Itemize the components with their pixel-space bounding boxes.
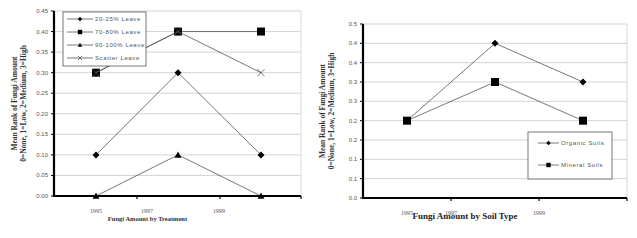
square-legend-icon xyxy=(78,30,82,34)
square-marker-icon xyxy=(257,28,265,36)
legend-label: Scatter Leave xyxy=(95,55,140,61)
chart-treatment: 0.450.400.350.300.250.200.150.100.050.00… xyxy=(0,0,310,238)
y-tick-label: 0.5 xyxy=(349,21,358,27)
y-axis-title: Mean Rank of Fungi Amount xyxy=(318,63,327,158)
legend-label: Organic Soils xyxy=(561,140,604,146)
chart-soil-type: 0.50.40.40.30.30.20.20.10.10.01995199719… xyxy=(310,0,637,238)
legend: 20-25% Leave70-80% Leave90-100% LeaveSca… xyxy=(63,12,146,66)
square-marker-icon xyxy=(403,117,411,125)
legend-item: 70-80% Leave xyxy=(67,29,141,35)
y-tick-label: 0.40 xyxy=(36,29,48,35)
chart-soil-type-svg: 0.50.40.40.30.30.20.20.10.10.01995199719… xyxy=(310,0,637,238)
diamond-marker-icon xyxy=(580,79,587,86)
y-tick-label: 0.35 xyxy=(36,49,48,55)
y-tick-label: 0.2 xyxy=(349,118,358,124)
y-tick-label: 0.30 xyxy=(36,70,48,76)
y-tick-label: 0.10 xyxy=(36,152,48,158)
y-tick-label: 0.25 xyxy=(36,90,48,96)
y-axis-subtitle: 0=None, 1=Low, 2=Medium, 3=High xyxy=(327,52,336,170)
legend-item: Scatter Leave xyxy=(67,55,140,61)
y-tick-label: 0.4 xyxy=(349,40,358,46)
x-tick-label: 1995 xyxy=(90,208,102,214)
y-tick-label: 0.0 xyxy=(349,195,358,201)
legend: Organic SoilsMineral Soils xyxy=(528,132,612,179)
square-marker-icon xyxy=(579,117,587,125)
y-axis-title: Mean Rank of Fungi Amount xyxy=(10,56,19,151)
x-tick-label: 1995 xyxy=(401,210,413,216)
x-tick-label: 1997 xyxy=(141,208,153,214)
chart-treatment-svg: 0.450.400.350.300.250.200.150.100.050.00… xyxy=(0,0,310,238)
legend-label: 20-25% Leave xyxy=(95,16,141,22)
y-tick-label: 0.3 xyxy=(349,79,358,85)
x-axis-title: Fungi Amount by Treatment xyxy=(108,215,188,222)
x-tick-label: 1999 xyxy=(533,210,545,216)
legend-label: Mineral Soils xyxy=(561,162,603,168)
y-tick-label: 0.4 xyxy=(349,60,358,66)
square-marker-icon xyxy=(491,78,499,86)
y-tick-label: 0.05 xyxy=(36,172,48,178)
legend-label: 90-100% Leave xyxy=(95,42,145,48)
x-axis-title: Fungi Amount by Soil Type xyxy=(412,211,517,221)
y-tick-label: 0.2 xyxy=(349,137,358,143)
y-tick-label: 0.45 xyxy=(36,8,48,14)
square-legend-icon xyxy=(546,163,550,167)
legend-label: 70-80% Leave xyxy=(95,29,141,35)
y-tick-label: 0.3 xyxy=(349,98,358,104)
y-tick-label: 0.20 xyxy=(36,111,48,117)
y-axis-subtitle: 0=None, 1=Low, 2=Medium, 3=High xyxy=(19,44,28,162)
y-tick-label: 0.00 xyxy=(36,193,48,199)
x-tick-label: 1999 xyxy=(213,208,225,214)
legend-item: Mineral Soils xyxy=(538,162,603,168)
y-tick-label: 0.15 xyxy=(36,131,48,137)
y-tick-label: 0.1 xyxy=(349,176,358,182)
y-tick-label: 0.1 xyxy=(349,156,358,162)
